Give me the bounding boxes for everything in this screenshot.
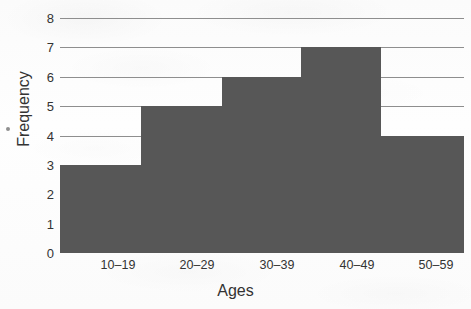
gridline-8 bbox=[60, 18, 464, 19]
x-axis-title: Ages bbox=[0, 282, 471, 300]
y-tick-8: 8 bbox=[24, 12, 54, 25]
plot-area bbox=[60, 18, 464, 253]
x-tick-label-1: 10–19 bbox=[101, 258, 136, 272]
y-tick-6: 6 bbox=[24, 70, 54, 83]
y-tick-0: 0 bbox=[24, 247, 54, 260]
x-tick-label-4: 40–49 bbox=[340, 258, 375, 272]
histogram-bar-4 bbox=[301, 47, 381, 253]
scan-speck-artifact bbox=[6, 127, 10, 131]
x-axis-tick-labels: 10–1920–2930–3940–4950–59 bbox=[60, 258, 464, 276]
y-axis-tick-labels: 8 7 6 5 4 3 2 1 0 bbox=[22, 18, 54, 253]
y-tick-4: 4 bbox=[24, 129, 54, 142]
y-tick-5: 5 bbox=[24, 100, 54, 113]
x-tick-label-5: 50–59 bbox=[419, 258, 454, 272]
histogram-screenshot: Frequency 8 7 6 5 4 3 2 1 0 10–1920–2930… bbox=[0, 0, 471, 309]
y-tick-1: 1 bbox=[24, 217, 54, 230]
y-tick-2: 2 bbox=[24, 188, 54, 201]
histogram-bar-5 bbox=[381, 136, 464, 254]
gridline-7 bbox=[60, 47, 464, 48]
histogram-bar-1 bbox=[60, 165, 141, 253]
x-tick-label-2: 20–29 bbox=[180, 258, 215, 272]
y-tick-3: 3 bbox=[24, 158, 54, 171]
histogram-bar-2 bbox=[141, 106, 222, 253]
y-tick-7: 7 bbox=[24, 41, 54, 54]
histogram-bar-3 bbox=[222, 77, 301, 253]
x-tick-label-3: 30–39 bbox=[260, 258, 295, 272]
